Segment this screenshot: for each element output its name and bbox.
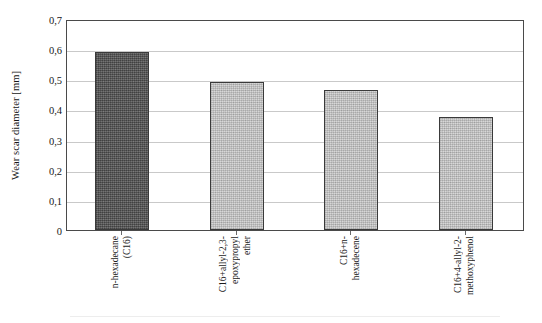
x-category-label-line: C16+4-allyl-2- xyxy=(453,236,464,293)
x-category-label-line: methoxyphenol xyxy=(465,236,476,295)
y-tick-label: 0,5 xyxy=(49,75,62,86)
plot-area xyxy=(66,20,524,231)
bar xyxy=(210,82,264,230)
x-category-label-line: hexadecene xyxy=(351,236,362,280)
x-tick-mark xyxy=(121,231,122,235)
bar xyxy=(95,52,149,230)
bar-chart: Wear scar diameter [mm] 00,10,20,30,40,5… xyxy=(0,0,542,323)
y-tick-label: 0,2 xyxy=(49,165,62,176)
x-category-label-line: C16+allyl-2,3- xyxy=(218,236,229,292)
y-axis-title-text: Wear scar diameter [mm] xyxy=(11,71,22,180)
y-tick-label: 0,4 xyxy=(49,105,62,116)
x-category-label: C16+4-allyl-2-methoxyphenol xyxy=(453,236,477,320)
x-tick-mark xyxy=(350,231,351,235)
x-tick-mark xyxy=(236,231,237,235)
x-tick-mark xyxy=(465,231,466,235)
y-axis-tick-labels: 00,10,20,30,40,50,60,7 xyxy=(28,20,62,231)
x-category-label-line: ether xyxy=(242,236,253,255)
x-category-label: C16+n-hexadecene xyxy=(338,236,362,320)
bar-series xyxy=(67,21,523,230)
x-category-label-line: C16+n- xyxy=(339,236,350,265)
x-category-label-line: (C16) xyxy=(122,236,133,258)
y-axis-title: Wear scar diameter [mm] xyxy=(6,20,26,231)
x-category-label-line: n-hexadecane xyxy=(110,236,121,288)
y-tick-label: 0 xyxy=(57,226,62,237)
x-category-label: C16+allyl-2,3-epoxypropylether xyxy=(218,236,254,320)
x-axis-tick-marks xyxy=(66,231,524,235)
scan-artifact xyxy=(70,316,500,317)
y-tick-label: 0,6 xyxy=(49,45,62,56)
y-tick-label: 0,7 xyxy=(49,15,62,26)
x-category-label: n-hexadecane(C16) xyxy=(109,236,133,320)
x-axis-category-labels: n-hexadecane(C16)C16+allyl-2,3-epoxyprop… xyxy=(66,236,524,320)
bar xyxy=(324,90,378,230)
y-tick-label: 0,1 xyxy=(49,195,62,206)
x-category-label-line: epoxypropyl xyxy=(230,236,241,284)
bar xyxy=(439,117,493,230)
y-tick-label: 0,3 xyxy=(49,135,62,146)
